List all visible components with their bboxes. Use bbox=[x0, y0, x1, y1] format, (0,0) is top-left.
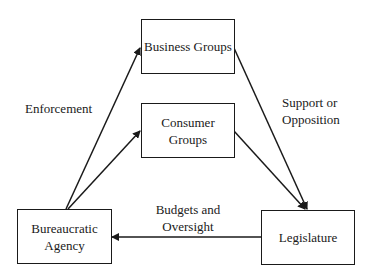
node-business-groups-label: Business Groups bbox=[144, 38, 232, 55]
node-consumer-groups-label-1: Consumer bbox=[161, 114, 214, 131]
node-consumer-groups: Consumer Groups bbox=[141, 103, 235, 158]
arrow-agency-to-consumer bbox=[68, 131, 140, 209]
arrow-business-to-legislature bbox=[234, 48, 307, 209]
edge-label-budgets-line1: Budgets and bbox=[156, 201, 221, 218]
edge-label-budgets-oversight: Budgets and Oversight bbox=[150, 201, 226, 235]
node-agency-label-1: Bureaucratic bbox=[31, 220, 97, 237]
edge-label-support-line1: Support or bbox=[282, 94, 337, 111]
edge-label-enforcement: Enforcement bbox=[25, 100, 92, 117]
node-legislature: Legislature bbox=[261, 210, 355, 265]
arrow-consumer-to-legislature bbox=[234, 131, 305, 209]
edge-label-support-line2: Opposition bbox=[282, 111, 340, 128]
node-agency-label-2: Agency bbox=[44, 237, 84, 254]
edge-label-budgets-line2: Oversight bbox=[162, 218, 213, 235]
edge-label-enforcement-text: Enforcement bbox=[25, 101, 92, 116]
edge-label-support-opposition: Support or Opposition bbox=[282, 94, 340, 128]
node-legislature-label: Legislature bbox=[279, 229, 337, 246]
node-bureaucratic-agency: Bureaucratic Agency bbox=[17, 209, 112, 264]
arrow-agency-to-business bbox=[66, 48, 140, 209]
node-business-groups: Business Groups bbox=[141, 19, 235, 74]
node-consumer-groups-label-2: Groups bbox=[169, 131, 207, 148]
